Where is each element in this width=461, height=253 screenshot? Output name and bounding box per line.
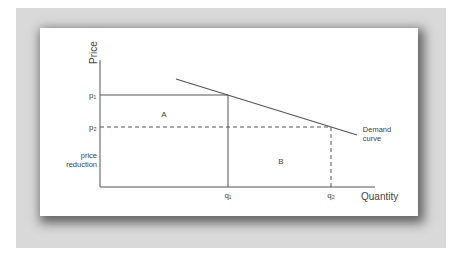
demand-curve-label-line2: curve: [363, 134, 381, 143]
demand-curve-label-line1: Demand: [363, 125, 391, 134]
price-reduction-label-line2: reduction: [66, 160, 97, 169]
region-a-label: A: [161, 110, 167, 119]
q1-label: q₁: [224, 191, 231, 200]
x-axis-label: Quantity: [361, 191, 398, 202]
price-reduction-label-line1: price: [81, 151, 97, 160]
q2-label: q₂: [327, 191, 335, 200]
region-b-label: B: [278, 157, 283, 166]
p1-label: p₁: [89, 91, 96, 100]
demand-diagram: Price p₁ p₂ price reduction A B Demand c…: [0, 0, 461, 253]
y-axis-label: Price: [88, 41, 99, 64]
demand-curve: [176, 79, 357, 135]
p2-label: p₂: [89, 123, 97, 132]
